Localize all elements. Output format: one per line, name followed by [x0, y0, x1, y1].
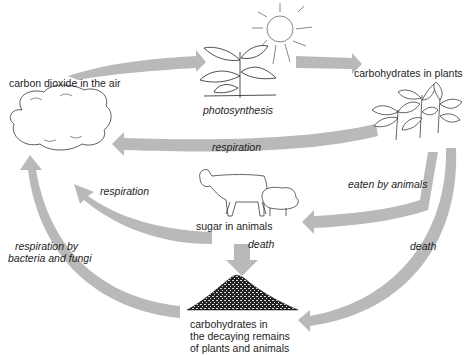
sheep-icon — [262, 187, 298, 216]
decomposer-label-line2: bacteria and fungi — [8, 252, 91, 264]
co2-label: carbon dioxide in the air — [9, 77, 121, 89]
cloud-icon — [10, 85, 111, 150]
animals-label: sugar in animals — [196, 220, 272, 232]
animal-respiration-label: respiration — [100, 185, 149, 197]
arrow-eaten-by-animals — [302, 152, 438, 234]
plants-icon — [372, 82, 462, 140]
decay-label-line3: of plants and animals — [190, 342, 289, 354]
seedling-icon — [200, 46, 276, 99]
decomposer-label-line1: respiration by — [15, 240, 78, 252]
plants-label: carbohydrates in plants — [354, 67, 463, 79]
arrow-photosynthesis-to-plants — [296, 53, 362, 74]
sun-icon — [252, 3, 312, 64]
photosynthesis-label: photosynthesis — [203, 104, 273, 116]
decay-label-line2: the decaying remains — [190, 330, 290, 342]
eaten-label: eaten by animals — [348, 178, 427, 190]
decay-label-line1: carbohydrates in — [190, 318, 268, 330]
animal-death-label: death — [248, 238, 274, 250]
arrow-co2-to-photosynthesis — [68, 50, 206, 80]
plant-respiration-label: respiration — [212, 141, 261, 153]
cow-icon — [200, 169, 267, 216]
decay-heap-icon — [187, 275, 298, 310]
plant-death-label: death — [410, 240, 436, 252]
